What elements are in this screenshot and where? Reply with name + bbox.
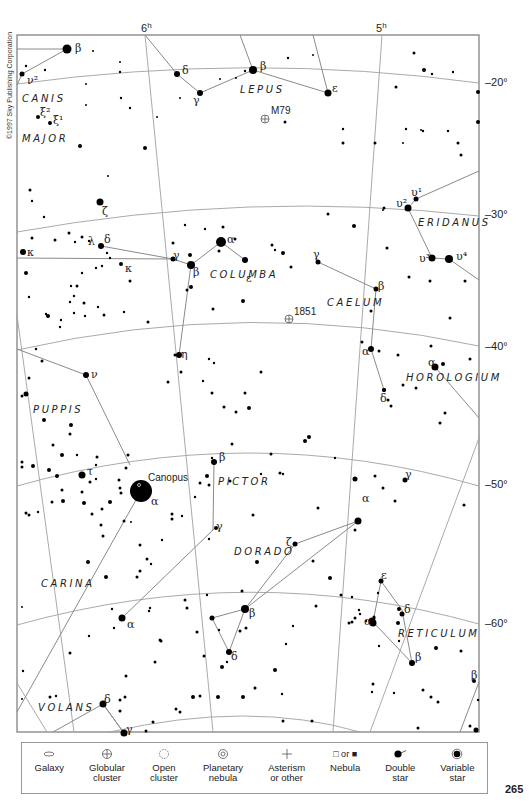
star [119, 262, 123, 266]
label-m79: M79 [271, 105, 291, 116]
star [139, 570, 142, 573]
star [353, 477, 358, 482]
star [354, 617, 357, 620]
star [260, 371, 263, 374]
star-designation: δ [380, 392, 387, 405]
star [167, 381, 170, 384]
star [21, 466, 24, 469]
star [270, 453, 273, 456]
star [382, 209, 384, 211]
dec-label: –50° [485, 478, 508, 490]
star [284, 121, 287, 124]
star [125, 675, 128, 678]
star [463, 504, 466, 507]
star [241, 695, 245, 699]
star [136, 576, 139, 579]
constellation-label: RETICULUM [398, 628, 480, 639]
star [374, 142, 377, 145]
star [35, 348, 37, 350]
page-number: 265 [505, 783, 523, 795]
star [430, 345, 433, 348]
star [130, 521, 132, 523]
star [211, 392, 214, 395]
star [199, 695, 202, 698]
star [249, 66, 257, 74]
star [97, 306, 99, 308]
constellation-label: CAELUM [327, 297, 384, 308]
star [255, 560, 259, 564]
star [377, 592, 379, 594]
star [469, 725, 472, 728]
star [281, 693, 283, 695]
star [373, 617, 376, 620]
star-designation: δ [182, 64, 189, 77]
star-designation: γ [216, 520, 223, 533]
legend-variable-star: Variablestar [440, 747, 474, 783]
star [415, 387, 418, 390]
star [213, 362, 215, 364]
star-designation: β [471, 669, 477, 682]
dec-label: –40° [485, 340, 508, 352]
star [452, 71, 454, 73]
star [146, 558, 149, 561]
star [186, 289, 189, 292]
star [61, 499, 65, 503]
star [370, 310, 373, 313]
star [60, 319, 62, 321]
star [199, 482, 202, 485]
star [83, 302, 86, 305]
star-designation: β [249, 607, 255, 620]
star-designation: β [378, 280, 384, 293]
star [186, 607, 189, 610]
nebula-icon: □ or ■ [333, 747, 357, 761]
star [431, 73, 433, 75]
star [476, 90, 480, 94]
star [444, 412, 447, 415]
star [20, 249, 26, 255]
star [422, 68, 426, 72]
star [386, 247, 389, 250]
star [204, 228, 206, 230]
star-designation: γ [173, 249, 180, 262]
star-designation: υ³ [419, 252, 430, 265]
star [120, 97, 122, 99]
star [212, 308, 215, 311]
star-designation: ν² [27, 74, 38, 87]
star [189, 285, 193, 289]
star [174, 354, 177, 357]
constellation-label: ERIDANUS [418, 217, 491, 228]
star [161, 539, 163, 541]
star [60, 453, 64, 457]
star [79, 472, 86, 479]
star [208, 538, 210, 540]
star [387, 399, 390, 402]
star [202, 380, 204, 382]
star [95, 464, 97, 466]
label-canopus: Canopus [148, 472, 188, 483]
star [69, 423, 73, 427]
star [96, 456, 99, 459]
legend-globular-cluster: Globularcluster [89, 747, 125, 783]
star [78, 144, 82, 148]
constellation-label: HOROLOGIUM [406, 372, 502, 383]
star [179, 711, 182, 714]
star-designation: γ [193, 94, 200, 107]
star [235, 411, 238, 414]
star [59, 326, 61, 328]
constellation-label: CANIS [22, 93, 66, 104]
star [28, 296, 30, 298]
double-star-icon [392, 748, 408, 760]
star [100, 524, 103, 527]
star [84, 315, 86, 317]
star [476, 120, 480, 124]
star [405, 128, 407, 130]
star [31, 200, 33, 202]
star [312, 560, 315, 563]
star [123, 311, 125, 313]
star [119, 699, 122, 702]
star [154, 661, 157, 664]
star [152, 721, 155, 724]
star-designation: δ [404, 603, 411, 616]
star [351, 596, 353, 598]
star-designation: η [181, 348, 188, 361]
